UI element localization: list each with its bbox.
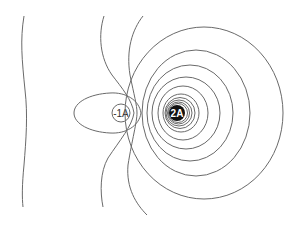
source-negative-1A: -1A: [112, 104, 130, 122]
field-contour-diagram: -1A 2A: [0, 0, 299, 228]
source-positive-2A: 2A: [169, 105, 185, 121]
contour-far-left: [22, 16, 27, 207]
contour-negative-lobe: [74, 93, 141, 133]
source-label-positive: 2A: [171, 108, 184, 119]
contour-left-3: [128, 16, 147, 215]
source-label-negative: -1A: [113, 108, 129, 119]
contour-rings-2A: [125, 27, 283, 199]
